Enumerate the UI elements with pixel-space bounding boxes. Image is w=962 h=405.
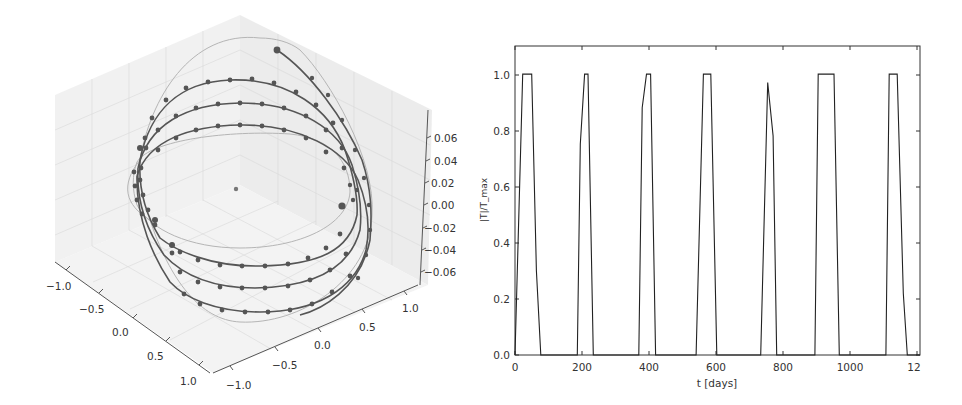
svg-text:0.0: 0.0 <box>112 326 129 338</box>
x-tick-labels: 0 200 400 600 800 1000 12 <box>512 361 921 373</box>
svg-text:−0.5: −0.5 <box>272 359 298 371</box>
center-point <box>234 187 238 191</box>
figure: −1.0 −0.5 0.0 0.5 1.0 −1.0 −0.5 0.0 0.5 … <box>0 0 962 405</box>
svg-text:0.5: 0.5 <box>359 321 376 333</box>
svg-text:0.02: 0.02 <box>431 177 454 189</box>
large-marker-left-2 <box>152 217 158 223</box>
svg-text:0.2: 0.2 <box>493 293 510 305</box>
svg-text:600: 600 <box>706 361 726 373</box>
svg-text:−1.0: −1.0 <box>46 280 72 292</box>
svg-text:0.5: 0.5 <box>147 350 164 362</box>
svg-text:400: 400 <box>639 361 659 373</box>
svg-text:0.4: 0.4 <box>493 237 510 249</box>
svg-text:0.0: 0.0 <box>314 339 331 351</box>
svg-text:0.8: 0.8 <box>493 125 510 137</box>
large-marker-left-3 <box>169 242 175 248</box>
svg-text:−1.0: −1.0 <box>226 379 252 391</box>
y-axis-label: |T|/T_max <box>479 177 489 222</box>
svg-text:−0.5: −0.5 <box>79 303 105 315</box>
svg-text:1.0: 1.0 <box>402 302 419 314</box>
plot-frame <box>515 46 920 355</box>
y-ticks <box>515 75 920 355</box>
svg-text:−0.04: −0.04 <box>424 244 456 256</box>
svg-text:1.0: 1.0 <box>180 375 197 387</box>
svg-text:0: 0 <box>512 361 519 373</box>
svg-text:0.00: 0.00 <box>431 199 454 211</box>
svg-text:12: 12 <box>907 361 920 373</box>
svg-text:0.06: 0.06 <box>434 132 458 144</box>
svg-text:0.0: 0.0 <box>493 349 510 361</box>
x-axis-label: t [days] <box>697 377 737 389</box>
svg-text:1000: 1000 <box>837 361 864 373</box>
svg-text:800: 800 <box>773 361 793 373</box>
large-marker-top <box>274 47 281 54</box>
large-marker-left-1 <box>137 145 143 151</box>
svg-text:200: 200 <box>572 361 592 373</box>
svg-text:1.0: 1.0 <box>493 69 510 81</box>
y-tick-labels: 0.0 0.2 0.4 0.6 0.8 1.0 <box>493 69 510 361</box>
time-series-plot: 0.0 0.2 0.4 0.6 0.8 1.0 0 200 400 600 80… <box>479 46 921 389</box>
svg-text:0.6: 0.6 <box>493 181 510 193</box>
series-line <box>515 74 920 355</box>
svg-text:−0.06: −0.06 <box>424 266 456 278</box>
orbit-3d-plot: −1.0 −0.5 0.0 0.5 1.0 −1.0 −0.5 0.0 0.5 … <box>46 15 458 391</box>
svg-text:0.04: 0.04 <box>434 155 458 167</box>
large-marker-right <box>338 202 345 209</box>
svg-text:−0.02: −0.02 <box>424 222 456 234</box>
